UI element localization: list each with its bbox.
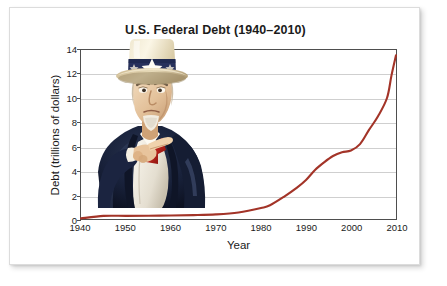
y-tick-label-8: 8 (55, 117, 77, 128)
figure-root: U.S. Federal Debt (1940–2010) Debt (tril… (0, 0, 447, 286)
y-axis-ticks: 02468101214 (52, 49, 77, 220)
x-axis-ticks: 19401950196019701980199020002010 (80, 220, 397, 236)
y-tick-label-10: 10 (55, 92, 77, 103)
y-tick-label-12: 12 (55, 68, 77, 79)
y-tick-label-4: 4 (55, 166, 77, 177)
x-tick-label-2000: 2000 (329, 222, 375, 233)
x-tick-label-1960: 1960 (148, 222, 194, 233)
x-tick-label-1980: 1980 (238, 222, 284, 233)
x-tick-label-1940: 1940 (57, 222, 103, 233)
x-tick-label-1950: 1950 (102, 222, 148, 233)
x-tick-label-1970: 1970 (193, 222, 239, 233)
plot-area (80, 49, 397, 220)
y-tick-label-2: 2 (55, 190, 77, 201)
x-tick-label-1990: 1990 (283, 222, 329, 233)
y-tick-label-14: 14 (55, 44, 77, 55)
chart-title: U.S. Federal Debt (1940–2010) (10, 23, 421, 37)
debt-line-series (81, 50, 396, 219)
x-tick-label-2010: 2010 (374, 222, 420, 233)
figure-card: U.S. Federal Debt (1940–2010) Debt (tril… (9, 7, 420, 265)
y-axis-title-container: Debt (trillions of dollars) (28, 49, 48, 220)
y-tick-label-6: 6 (55, 141, 77, 152)
x-axis-title: Year (80, 239, 397, 251)
